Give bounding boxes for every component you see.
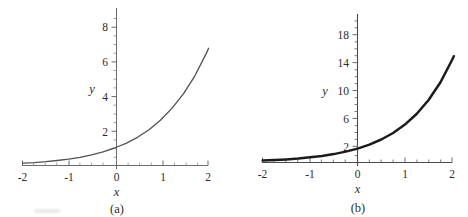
x-tick-label-b-2: 0 bbox=[355, 168, 361, 180]
panel-caption-b: (b) bbox=[351, 201, 366, 215]
curve-exponential-a bbox=[23, 48, 209, 163]
y-tick-label-a-1: 4 bbox=[102, 91, 108, 103]
y-tick-label-a-3: 8 bbox=[102, 21, 108, 33]
chart-panel-a: -2 -1 0 1 2 2 4 6 8 y x (a) bbox=[0, 0, 234, 217]
y-axis-label-b: y bbox=[320, 84, 328, 98]
y-tick-label-b-4: 18 bbox=[338, 29, 350, 41]
y-tick-label-a-0: 2 bbox=[102, 126, 108, 138]
x-tick-label-b-3: 1 bbox=[402, 168, 408, 180]
x-tick-label-b-1: -1 bbox=[305, 168, 315, 180]
y-tick-label-b-0: 2 bbox=[343, 141, 349, 153]
y-axis-major-ticks-b bbox=[353, 35, 358, 147]
x-axis-label-b: x bbox=[354, 182, 361, 196]
curve-exponential-b bbox=[263, 56, 454, 160]
x-tick-label-a-2: 0 bbox=[114, 171, 120, 183]
x-tick-label-b-0: -2 bbox=[258, 168, 268, 180]
plot-svg-a: -2 -1 0 1 2 2 4 6 8 y x (a) bbox=[0, 0, 234, 217]
x-tick-label-a-4: 2 bbox=[205, 171, 211, 183]
x-tick-label-a-3: 1 bbox=[160, 171, 166, 183]
y-tick-label-b-2: 10 bbox=[338, 85, 350, 97]
scan-artifact bbox=[34, 209, 60, 213]
y-axis-label-a: y bbox=[87, 82, 95, 96]
figure-two-exponential-plots: -2 -1 0 1 2 2 4 6 8 y x (a) bbox=[0, 0, 468, 217]
y-tick-label-a-2: 6 bbox=[102, 56, 108, 68]
chart-panel-b: -2 -1 0 1 2 2 6 10 14 18 y x (b) bbox=[234, 0, 468, 217]
x-tick-label-b-4: 2 bbox=[449, 168, 455, 180]
x-tick-label-a-0: -2 bbox=[18, 171, 28, 183]
x-axis-label-a: x bbox=[113, 185, 120, 199]
plot-svg-b: -2 -1 0 1 2 2 6 10 14 18 y x (b) bbox=[234, 0, 468, 217]
y-tick-label-b-1: 6 bbox=[343, 113, 349, 125]
x-tick-label-a-1: -1 bbox=[64, 171, 74, 183]
panel-caption-a: (a) bbox=[110, 202, 124, 216]
y-tick-label-b-3: 14 bbox=[338, 57, 350, 69]
